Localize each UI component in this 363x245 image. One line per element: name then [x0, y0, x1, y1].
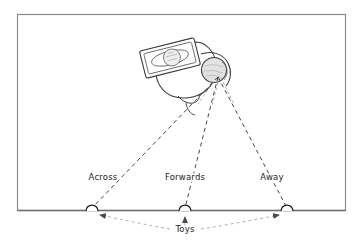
seated-infant [139, 38, 230, 115]
label-forwards: Forwards [165, 172, 206, 182]
label-away: Away [260, 172, 283, 182]
toy-across[interactable] [86, 205, 98, 211]
figure-root: Across Across Forwards Forwards Away Awa… [0, 0, 363, 245]
infant-head [202, 58, 227, 83]
toys-pointer-right [201, 215, 279, 229]
toys-caption: Toys [174, 224, 195, 234]
toy-away[interactable] [281, 205, 293, 211]
label-across: Across [89, 172, 118, 182]
toy-forwards[interactable] [179, 205, 191, 211]
infant-forearm [186, 103, 195, 115]
scene-svg: Across Across Forwards Forwards Away Awa… [0, 0, 363, 245]
gaze-fan-c [221, 78, 234, 104]
toys-pointer-left [100, 215, 170, 229]
gaze-line-away [218, 77, 287, 208]
